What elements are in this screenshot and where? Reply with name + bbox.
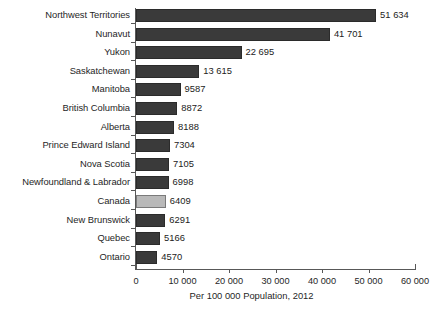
y-axis-tick	[131, 23, 136, 24]
y-axis-tick	[131, 42, 136, 43]
bar-value-label: 7105	[173, 157, 194, 171]
bar-value-label: 9587	[185, 82, 206, 96]
category-label: Quebec	[0, 231, 130, 245]
x-axis-tick-label: 10 000	[168, 275, 196, 287]
bar-value-label: 6291	[169, 213, 190, 227]
category-label: Ontario	[0, 250, 130, 264]
bar-value-label: 41 701	[334, 27, 363, 41]
bar-row: Ontario4570	[0, 250, 441, 268]
category-label: Nova Scotia	[0, 157, 130, 171]
bar-row: Newfoundland & Labrador6998	[0, 175, 441, 193]
bar-highlighted	[136, 195, 166, 208]
x-axis-tick-label: 60 000	[401, 275, 429, 287]
bar	[136, 28, 330, 41]
y-axis-tick	[131, 60, 136, 61]
bar-value-label: 6998	[173, 175, 194, 189]
bar	[136, 9, 376, 22]
bar-row: Saskatchewan13 615	[0, 64, 441, 82]
bar-row: Nova Scotia7105	[0, 157, 441, 175]
y-axis-tick	[131, 79, 136, 80]
bar-value-label: 5166	[164, 231, 185, 245]
x-axis-tick-mark	[276, 269, 277, 273]
bar-value-label: 6409	[170, 194, 191, 208]
x-axis-tick-mark	[322, 269, 323, 273]
bar-row: Yukon22 695	[0, 45, 441, 63]
x-axis-tick-label: 20 000	[215, 275, 243, 287]
bar-row: Alberta8188	[0, 120, 441, 138]
bar	[136, 121, 174, 134]
category-label: Nunavut	[0, 27, 130, 41]
bar-row: British Columbia8872	[0, 101, 441, 119]
y-axis-tick	[131, 228, 136, 229]
x-axis-tick-label: 50 000	[354, 275, 382, 287]
bar-value-label: 22 695	[246, 45, 275, 59]
bar	[136, 102, 177, 115]
x-axis-tick-mark	[229, 269, 230, 273]
y-axis-tick	[131, 209, 136, 210]
bar	[136, 83, 181, 96]
y-axis-tick	[131, 116, 136, 117]
x-axis-tick-mark	[183, 269, 184, 273]
x-axis-tick-label: 40 000	[308, 275, 336, 287]
bar-chart: Northwest Territories51 634Nunavut41 701…	[0, 0, 441, 319]
y-axis-tick	[131, 265, 136, 266]
bar-row: Prince Edward Island7304	[0, 138, 441, 156]
category-label: Yukon	[0, 45, 130, 59]
category-label: Alberta	[0, 120, 130, 134]
bar	[136, 232, 160, 245]
y-axis-tick	[131, 172, 136, 173]
y-axis-tick	[131, 135, 136, 136]
category-label: Northwest Territories	[0, 8, 130, 22]
bar	[136, 46, 242, 59]
category-label: Manitoba	[0, 82, 130, 96]
category-label: Newfoundland & Labrador	[0, 175, 130, 189]
bar-row: Manitoba9587	[0, 82, 441, 100]
bar-row: Canada6409	[0, 194, 441, 212]
bar-row: New Brunswick6291	[0, 213, 441, 231]
bar-value-label: 13 615	[203, 64, 232, 78]
category-label: Canada	[0, 194, 130, 208]
bar	[136, 214, 165, 227]
x-axis-title-text: Per 100 000 Population, 2012	[189, 290, 313, 301]
bar	[136, 65, 199, 78]
bar	[136, 139, 170, 152]
bar-value-label: 8872	[181, 101, 202, 115]
category-label: British Columbia	[0, 101, 130, 115]
bar-value-label: 4570	[161, 250, 182, 264]
bar-row: Quebec5166	[0, 231, 441, 249]
category-label: Prince Edward Island	[0, 138, 130, 152]
bar-value-label: 8188	[178, 120, 199, 134]
category-label: Saskatchewan	[0, 64, 130, 78]
bar	[136, 158, 169, 171]
y-axis-tick	[131, 190, 136, 191]
y-axis-tick	[131, 153, 136, 154]
x-axis-tick-mark	[369, 269, 370, 273]
bar	[136, 251, 157, 264]
x-axis-title: Per 100 000 Population, 2012	[0, 290, 441, 301]
bar-row: Northwest Territories51 634	[0, 8, 441, 26]
bar-row: Nunavut41 701	[0, 27, 441, 45]
y-axis-tick	[131, 97, 136, 98]
bar	[136, 176, 169, 189]
bar-value-label: 7304	[174, 138, 195, 152]
y-axis-tick	[131, 246, 136, 247]
bar-value-label: 51 634	[380, 8, 409, 22]
category-label: New Brunswick	[0, 213, 130, 227]
x-axis-tick-label: 0	[133, 275, 138, 287]
x-axis-tick-label: 30 000	[261, 275, 289, 287]
